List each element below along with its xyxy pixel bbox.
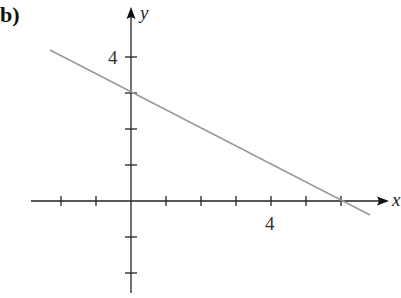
graph: 4 4 y x	[0, 0, 401, 298]
plotted-line	[50, 50, 370, 215]
x-tick-label-4: 4	[265, 213, 275, 234]
x-axis-label: x	[391, 189, 401, 210]
y-axis-label: y	[138, 2, 149, 23]
y-tick-label-4: 4	[108, 47, 118, 68]
